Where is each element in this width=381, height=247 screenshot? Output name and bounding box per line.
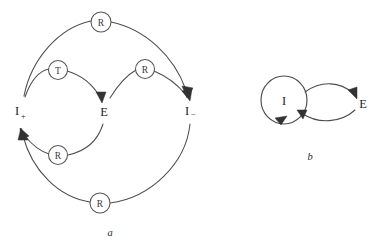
figure-root: R T R R R I + E [0,0,381,247]
state-i-minus-base: I [185,104,189,118]
arrowhead-e-to-i [297,110,307,119]
state-i-minus-sub: − [191,109,196,119]
badge-upper-right-label: R [142,65,149,75]
edge-iplus-to-iminus-right [111,22,186,90]
panel-a: R T R R R I + E [15,12,196,238]
edge-iminus-to-bottom-badge [110,124,190,203]
state-i-label: I [282,94,286,108]
badge-bottom: R [90,193,110,213]
edge-t-iplus-left [25,69,49,97]
arrowhead-t-to-e [96,92,106,103]
caption-b: b [307,151,312,162]
state-e2-label: E [359,97,367,111]
state-i-plus-sub: + [21,111,26,121]
badge-upper-right: R [136,60,155,79]
diagram-canvas: R T R R R I + E [0,0,381,247]
badge-bottom-label: R [97,199,104,209]
edge-r-badge-to-iminus [154,71,186,95]
caption-a: a [107,227,112,238]
badge-upper-left-label: T [55,66,61,76]
state-e: E [100,105,108,119]
state-i-plus-base: I [15,104,19,118]
arrowhead-r-to-iminus [182,89,192,101]
edge-r-e-to-badge-lower [68,124,103,155]
arrowhead-i-to-e [348,87,357,99]
edge-iplus-to-iminus-left [24,21,91,96]
badge-lower-left-label: R [55,151,62,161]
state-e-base: E [100,105,108,119]
badge-top-label: R [98,18,105,28]
state-i-plus: I + [15,104,26,121]
edge-i-to-e [305,84,353,93]
edge-r-e-to-badge [110,70,136,98]
edge-e-to-i [303,110,355,121]
state-i-minus: I − [185,104,196,119]
badge-top: R [91,12,111,32]
badge-lower-left: R [49,146,68,165]
edge-t-to-e [67,71,100,97]
panel-b: I E b [261,76,367,162]
badge-upper-left: T [49,61,68,80]
